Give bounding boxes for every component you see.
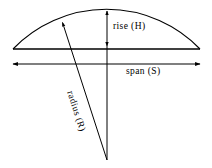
rise-label: rise (H) bbox=[113, 21, 145, 31]
arch-geometry-diagram: rise (H) span (S) radius (R) bbox=[0, 0, 212, 168]
diagram-canvas bbox=[0, 0, 212, 168]
span-label: span (S) bbox=[126, 66, 161, 76]
